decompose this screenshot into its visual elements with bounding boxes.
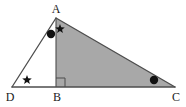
- angle-marker-C-dot: [150, 76, 158, 84]
- angle-marker-A-dot: [47, 30, 55, 38]
- vertex-label-c: C: [172, 90, 180, 104]
- angle-marker-D-star: [22, 75, 32, 84]
- vertex-label-b: B: [53, 90, 61, 104]
- vertex-label-d: D: [6, 90, 15, 104]
- geometry-canvas: A B C D: [0, 0, 186, 107]
- vertex-label-a: A: [52, 2, 61, 16]
- segment-da: [12, 18, 56, 87]
- geometry-diagram: A B C D: [0, 0, 186, 107]
